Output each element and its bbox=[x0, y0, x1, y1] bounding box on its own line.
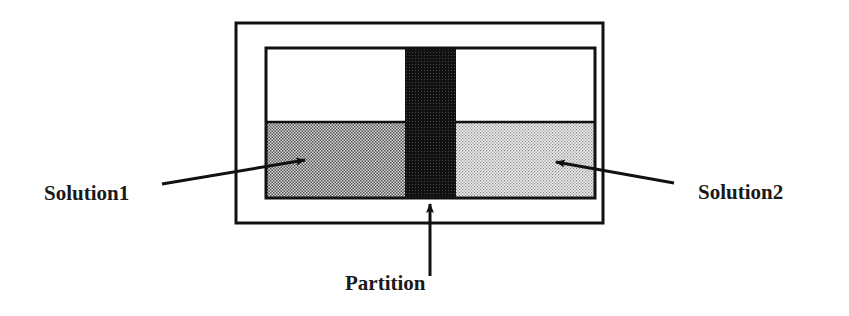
osmosis-diagram bbox=[0, 0, 849, 316]
solution1-label: Solution1 bbox=[44, 181, 129, 206]
partition-label: Partition bbox=[345, 271, 425, 296]
solution2-region bbox=[456, 122, 594, 198]
solution2-label: Solution2 bbox=[698, 180, 783, 205]
partition-wall bbox=[405, 48, 456, 198]
solution1-region bbox=[267, 122, 406, 198]
